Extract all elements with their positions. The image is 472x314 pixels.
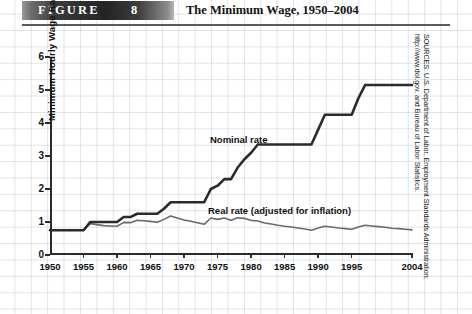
y-tick-label: 1 <box>28 216 44 227</box>
x-tick-label: 1990 <box>308 261 329 272</box>
series-label-real: Real rate (adjusted for inflation) <box>208 205 351 216</box>
figure-title: The Minimum Wage, 1950–2004 <box>186 3 359 18</box>
x-tick-label: 1980 <box>241 261 262 272</box>
y-tick-label: 3 <box>28 150 44 161</box>
x-tick-label: 1965 <box>140 261 161 272</box>
x-tick-label: 1950 <box>39 261 60 272</box>
y-tick-label: 0 <box>28 249 44 260</box>
figure-number: 8 <box>131 3 137 18</box>
x-tick-label: 1985 <box>274 261 295 272</box>
x-tick-label: 1995 <box>341 261 362 272</box>
y-tick-label: 2 <box>28 183 44 194</box>
x-tick-label: 1975 <box>207 261 228 272</box>
x-tick-label: 1970 <box>173 261 194 272</box>
x-tick-label: 1955 <box>73 261 94 272</box>
series-label-nominal: Nominal rate <box>210 134 268 145</box>
y-tick-label: 6 <box>28 51 44 62</box>
source-note: SOURCES: U.S. Department of Labor, Emplo… <box>412 34 430 284</box>
header-divider <box>22 24 450 26</box>
figure-container: FIGURE 8 The Minimum Wage, 1950–2004 Min… <box>0 0 472 314</box>
chart-series-svg <box>50 57 412 255</box>
y-tick-label: 4 <box>28 117 44 128</box>
y-tick-label: 5 <box>28 84 44 95</box>
chart-plot-area: Minimum Hourly Wage Rate 0123456 1950195… <box>50 57 412 255</box>
x-tick-label: 1960 <box>106 261 127 272</box>
figure-header: FIGURE 8 The Minimum Wage, 1950–2004 <box>0 0 472 22</box>
